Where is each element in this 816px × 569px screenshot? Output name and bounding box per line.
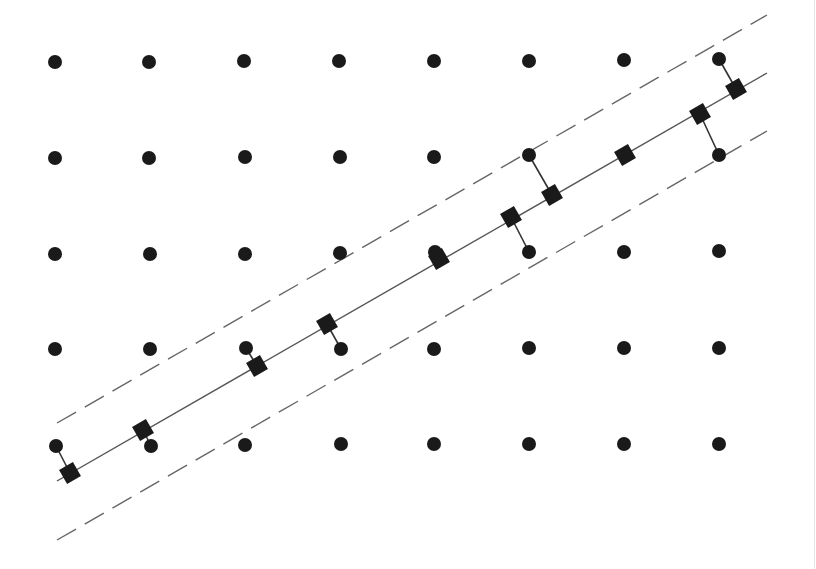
projected-point-square [725, 78, 747, 100]
lattice-point [142, 55, 156, 69]
lattice-point [143, 247, 157, 261]
lattice-point [712, 148, 726, 162]
lattice-point [48, 342, 62, 356]
lattice-point [142, 151, 156, 165]
lattice-point [712, 52, 726, 66]
lattice-point [522, 54, 536, 68]
projected-squares [59, 78, 747, 484]
lattice-point [333, 246, 347, 260]
reference-lines [57, 15, 767, 540]
lattice-point [712, 341, 726, 355]
lattice-point [143, 342, 157, 356]
lattice-point [48, 247, 62, 261]
lattice-points [48, 52, 726, 453]
lattice-point [617, 341, 631, 355]
lattice-point [239, 341, 253, 355]
lattice-point [522, 148, 536, 162]
lattice-point [48, 151, 62, 165]
lattice-point [522, 245, 536, 259]
projected-point-square [59, 462, 81, 484]
lattice-point [48, 55, 62, 69]
projection-segments [56, 59, 736, 473]
lattice-point [617, 437, 631, 451]
lattice-point [49, 439, 63, 453]
lattice-point [334, 437, 348, 451]
lattice-point [712, 244, 726, 258]
lattice-point [427, 150, 441, 164]
projected-point-square [246, 355, 268, 377]
lattice-point [712, 437, 726, 451]
lattice-point [334, 342, 348, 356]
lattice-point [427, 342, 441, 356]
lattice-point [238, 247, 252, 261]
projected-point-square [316, 313, 338, 335]
lattice-point [144, 439, 158, 453]
projected-point-square [614, 144, 636, 166]
lattice-point [238, 150, 252, 164]
fit-line [57, 73, 767, 481]
upper-bound-line [57, 15, 767, 423]
lattice-point [332, 54, 346, 68]
lattice-point [617, 245, 631, 259]
lattice-point [427, 437, 441, 451]
projected-point-square [541, 184, 563, 206]
projected-point-square [132, 419, 154, 441]
lattice-projection-diagram [0, 0, 816, 569]
lattice-point [522, 437, 536, 451]
lattice-point [237, 54, 251, 68]
lattice-point [427, 54, 441, 68]
lattice-point [617, 53, 631, 67]
right-border [814, 0, 815, 569]
lattice-point [522, 341, 536, 355]
lower-bound-line [57, 131, 767, 540]
lattice-point [238, 438, 252, 452]
lattice-point [333, 150, 347, 164]
